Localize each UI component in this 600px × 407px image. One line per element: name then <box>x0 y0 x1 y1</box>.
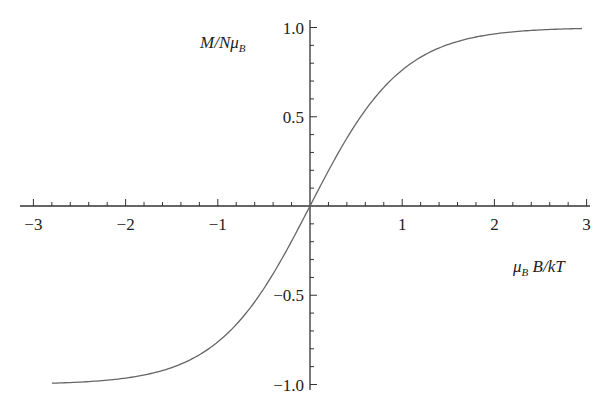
x-tick-label: 1 <box>398 215 407 234</box>
y-tick-label: −0.5 <box>273 286 304 305</box>
x-axis-label: μB B/kT <box>512 257 566 278</box>
x-tick-label: −2 <box>117 215 135 234</box>
x-tick-label: 2 <box>490 215 499 234</box>
y-axis-label: M/NμB <box>199 33 246 54</box>
y-tick-label: 0.5 <box>283 108 304 127</box>
x-tick-label: −3 <box>24 215 42 234</box>
x-tick-label: 3 <box>582 215 591 234</box>
y-tick-label: −1.0 <box>273 376 304 395</box>
axes <box>20 20 590 390</box>
x-tick-label: −1 <box>209 215 227 234</box>
magnetization-chart: −3−2−1123−1.0−0.50.51.0 M/NμB μB B/kT <box>0 0 600 407</box>
y-tick-label: 1.0 <box>283 19 304 38</box>
